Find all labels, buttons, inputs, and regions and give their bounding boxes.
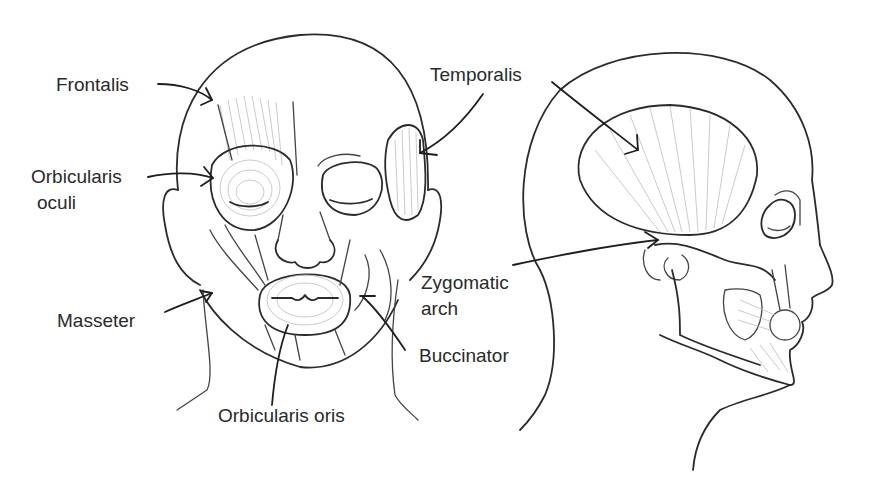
side-buccinator (724, 289, 762, 340)
front-skull-outline (177, 34, 428, 190)
nose-bridge (278, 212, 330, 240)
side-neck-back (520, 270, 554, 430)
label-masseter: Masseter (57, 310, 135, 332)
front-head (163, 34, 441, 420)
label-zygomatic-line2: arch (421, 298, 458, 320)
orbicularis-oris-arrow (272, 325, 288, 405)
front-neck-left (177, 290, 210, 410)
front-right-ear (410, 189, 441, 280)
cheek-muscles (210, 225, 391, 360)
orbicularis-oris-ring (259, 274, 350, 335)
orbicularis-oculi-ring (211, 146, 293, 231)
nose (276, 240, 335, 268)
side-brow-ridge (775, 191, 800, 225)
front-left-ear (163, 189, 200, 285)
label-temporalis: Temporalis (430, 64, 522, 86)
mouth (272, 295, 338, 300)
label-orbicularis-oculi-line2: oculi (37, 192, 76, 214)
label-orbicularis-oculi-line1: Orbicularis (31, 166, 122, 188)
frontalis-arrow (158, 84, 212, 100)
temporalis-side-arrow (552, 82, 638, 150)
label-frontalis: Frontalis (56, 74, 129, 96)
orbicularis-oculi-hatch (220, 160, 280, 216)
temporalis-front-hatch (395, 128, 418, 215)
zygomatic-arch-arrow (513, 240, 658, 265)
label-orbicularis-oris: Orbicularis oris (218, 405, 345, 427)
label-zygomatic-line1: Zygomatic (421, 272, 509, 294)
orbicularis-oris-hatch (267, 275, 343, 325)
side-eye-socket (761, 200, 795, 238)
right-eye-socket (322, 162, 382, 215)
orbicularis-oculi-arrow (148, 173, 213, 178)
anatomy-diagram: Frontalis Orbicularis oculi Masseter Orb… (0, 0, 871, 497)
side-eye-closed (768, 226, 790, 230)
temporalis-side-hatch (595, 106, 745, 232)
side-ear-region (643, 250, 688, 280)
side-jaw (672, 270, 760, 365)
temporalis-front-arrow (420, 94, 483, 153)
side-neck-front (693, 385, 790, 470)
frontalis-muscle (218, 96, 297, 175)
side-head (520, 53, 833, 470)
right-eye-closed (330, 199, 372, 204)
side-face-profile (660, 245, 833, 385)
temporalis-front (385, 125, 425, 220)
label-buccinator: Buccinator (419, 345, 509, 367)
